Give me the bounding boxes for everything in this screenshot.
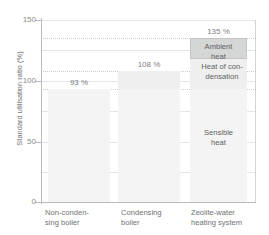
bar-segment-sensible-heat [48, 89, 110, 202]
x-axis-category-label-2-line2: boiler [121, 218, 191, 228]
y-axis-title: Standard utilisation ratio (%) [15, 24, 24, 174]
chart-figure: Standard utilisation ratio (%) 150 100 5… [0, 0, 269, 235]
segment-label-sensible-heat-line1: Sensible [190, 128, 247, 138]
segment-label-ambient-heat-line2: heat [190, 52, 247, 62]
y-ticklabel-0: 0 [10, 197, 36, 206]
bar-segment-sensible-heat [118, 89, 180, 202]
y-ticklabel-100: 100 [10, 76, 36, 85]
x-axis-category-label-2: Condensing boiler [121, 208, 191, 229]
x-axis-category-label-3-line2: heating system [191, 218, 269, 228]
x-axis-category-label-3-line1: Zeolite-water [191, 208, 269, 218]
segment-label-ambient-heat: Ambient heat [190, 42, 247, 61]
bar-value-label-2: 108 % [118, 60, 180, 69]
bar-segment-heat-of-condensation [118, 71, 180, 89]
x-axis-category-label-3: Zeolite-water heating system [191, 208, 269, 229]
bar-value-label-1: 93 % [48, 78, 110, 87]
segment-label-sensible-heat-line2: heat [190, 138, 247, 148]
bar-condensing-boiler[interactable] [118, 71, 180, 202]
bar-non-condensing-boiler[interactable] [48, 89, 110, 202]
y-ticklabel-150: 150 [10, 15, 36, 24]
segment-label-heat-of-condensation-line2: densation [186, 72, 258, 82]
x-axis-line [41, 202, 256, 203]
segment-label-heat-of-condensation-line1: Heat of con- [186, 62, 258, 72]
segment-label-sensible-heat: Sensible heat [190, 128, 247, 147]
bar-value-label-3: 135 % [190, 27, 247, 36]
x-axis-category-label-1-line1: Non-conden- [45, 208, 115, 218]
y-ticklabel-50: 50 [10, 137, 36, 146]
x-axis-category-label-1-line2: sing boiler [45, 218, 115, 228]
x-axis-category-label-2-line1: Condensing [121, 208, 191, 218]
segment-label-heat-of-condensation: Heat of con- densation [186, 62, 258, 81]
x-axis-category-label-1: Non-conden- sing boiler [45, 208, 115, 229]
segment-label-ambient-heat-line1: Ambient [190, 42, 247, 52]
